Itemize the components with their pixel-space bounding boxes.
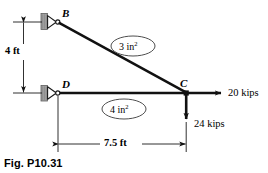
pin-support-b <box>48 16 60 29</box>
figure-caption: Fig. P10.31 <box>4 157 63 169</box>
member-area-exponent-bc: 2 <box>134 40 137 47</box>
member-area-label-dc: 4 in2 <box>110 104 129 115</box>
member-area-value-bc: 3 in <box>119 41 134 52</box>
member-area-label-bc: 3 in2 <box>119 41 138 52</box>
horizontal-load-label: 20 kips <box>228 88 259 99</box>
horizontal-dimension-label: 7.5 ft <box>104 138 127 149</box>
member-area-value-dc: 4 in <box>110 104 125 115</box>
support-block-b <box>41 14 48 30</box>
joint-label-b: B <box>62 8 69 19</box>
joint-label-d: D <box>62 79 70 90</box>
vertical-dimension-group <box>13 22 42 93</box>
vertical-load-label: 24 kips <box>194 119 225 130</box>
vertical-dimension-label: 4 ft <box>5 46 20 57</box>
truss-figure: B D C 3 in2 4 in2 20 kips 24 kips 4 ft 7… <box>0 0 268 173</box>
joint-label-c: C <box>180 78 187 89</box>
member-area-exponent-dc: 2 <box>125 103 128 110</box>
member-bc <box>60 23 186 92</box>
